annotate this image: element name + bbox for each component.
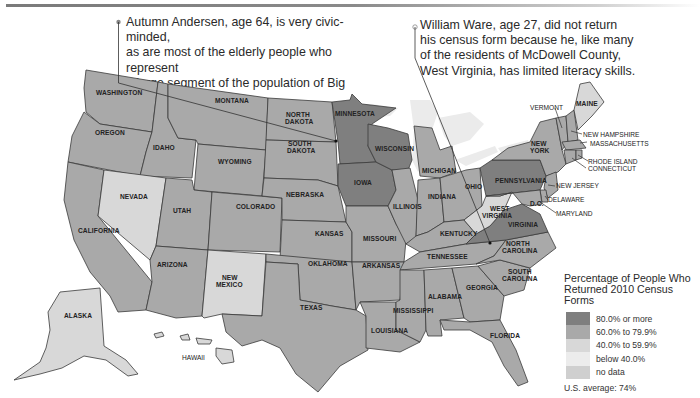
label-vermont: VERMONT: [530, 104, 563, 111]
legend-label: no data: [596, 367, 625, 377]
state-connecticut[interactable]: [564, 150, 576, 164]
legend-title-line-2: Returned 2010 Census Forms: [564, 284, 700, 306]
label-new-mexico-1: NEW: [222, 274, 238, 281]
legend-item: no data: [566, 366, 700, 379]
label-iowa: IOWA: [354, 179, 372, 186]
label-kentucky: KENTUCKY: [440, 230, 478, 237]
legend-swatch: [566, 325, 590, 338]
label-connecticut: CONNECTICUT: [588, 165, 636, 172]
legend-item: 60.0% to 79.9%: [566, 325, 700, 338]
label-florida: FLORIDA: [490, 332, 520, 339]
legend-swatch: [566, 312, 590, 325]
label-south-carolina-2: CAROLINA: [502, 275, 538, 282]
label-new-mexico-2: MEXICO: [216, 281, 243, 288]
label-south-dakota-2: DAKOTA: [287, 147, 315, 154]
state-rhode-island[interactable]: [576, 150, 582, 160]
label-kansas: KANSAS: [315, 230, 344, 237]
label-massachusetts: MASSACHUSETTS: [590, 140, 649, 147]
state-kansas[interactable]: [280, 220, 352, 262]
legend-label: 80.0% or more: [596, 314, 652, 324]
legend-label: below 40.0%: [596, 354, 645, 364]
label-new-jersey: NEW JERSEY: [556, 182, 599, 189]
label-tennessee: TENNESSEE: [427, 253, 468, 260]
label-maryland: MARYLAND: [556, 210, 593, 217]
us-average: U.S. average: 74%: [564, 383, 700, 393]
label-missouri: MISSOURI: [363, 235, 396, 242]
label-utah: UTAH: [173, 207, 191, 214]
label-alabama: ALABAMA: [428, 293, 462, 300]
label-virginia: VIRGINIA: [508, 221, 538, 228]
legend-swatch: [566, 339, 590, 352]
label-new-york-2: YORK: [530, 147, 550, 154]
label-dc: D.C.: [530, 200, 544, 207]
legend-item: 40.0% to 59.9%: [566, 339, 700, 352]
label-oklahoma: OKLAHOMA: [308, 260, 348, 267]
label-north-carolina-1: NORTH: [506, 240, 530, 247]
legend-item: below 40.0%: [566, 352, 700, 365]
label-arkansas: ARKANSAS: [362, 262, 401, 269]
label-idaho: IDAHO: [153, 144, 175, 151]
label-west-virginia-1: WEST: [490, 205, 509, 212]
label-nevada: NEVADA: [120, 193, 148, 200]
state-colorado[interactable]: [208, 192, 282, 252]
label-texas: TEXAS: [300, 304, 323, 311]
label-new-york-1: NEW: [531, 140, 547, 147]
label-minnesota: MINNESOTA: [335, 110, 375, 117]
label-wyoming: WYOMING: [218, 158, 252, 165]
label-georgia: GEORGIA: [466, 284, 498, 291]
label-illinois: ILLINOIS: [393, 203, 422, 210]
legend-label: 40.0% to 59.9%: [596, 340, 657, 350]
label-north-dakota-1: NORTH: [286, 111, 310, 118]
label-delaware: DELAWARE: [548, 196, 585, 203]
state-massachusetts[interactable]: [562, 140, 586, 150]
label-north-carolina-2: CAROLINA: [502, 247, 538, 254]
label-pennsylvania: PENNSYLVANIA: [495, 177, 547, 184]
state-arizona[interactable]: [146, 246, 208, 318]
legend-item: 80.0% or more: [566, 312, 700, 325]
label-rhode-island: RHODE ISLAND: [588, 158, 638, 165]
label-south-carolina-1: SOUTH: [508, 268, 532, 275]
label-michigan: MICHIGAN: [422, 167, 456, 174]
legend-swatch: [566, 366, 590, 379]
label-west-virginia-2: VIRGINIA: [482, 212, 512, 219]
state-florida[interactable]: [440, 320, 528, 386]
label-north-dakota-2: DAKOTA: [285, 118, 313, 125]
big-stone-county-marker: [334, 139, 337, 142]
mcdowell-county-marker: [488, 241, 491, 244]
label-south-dakota-1: SOUTH: [288, 140, 312, 147]
label-wisconsin: WISCONSIN: [375, 145, 414, 152]
label-colorado: COLORADO: [236, 203, 275, 210]
label-nebraska: NEBRASKA: [286, 191, 324, 198]
legend-swatch: [566, 352, 590, 365]
label-alaska: ALASKA: [64, 312, 92, 319]
label-hawaii: HAWAII: [182, 354, 205, 361]
label-arizona: ARIZONA: [157, 261, 188, 268]
label-washington: WASHINGTON: [96, 89, 142, 96]
label-ohio: OHIO: [465, 183, 482, 190]
label-louisiana: LOUISIANA: [371, 327, 408, 334]
legend: Percentage of People Who Returned 2010 C…: [566, 273, 700, 393]
label-montana: MONTANA: [215, 97, 249, 104]
legend-label: 60.0% to 79.9%: [596, 327, 657, 337]
label-oregon: OREGON: [95, 129, 125, 136]
label-maine: MAINE: [576, 100, 598, 107]
label-indiana: INDIANA: [428, 193, 456, 200]
label-mississippi: MISSISSIPPI: [393, 307, 433, 314]
label-california: CALIFORNIA: [78, 227, 120, 234]
state-wyoming[interactable]: [194, 144, 266, 196]
label-new-hampshire: NEW HAMPSHIRE: [583, 131, 640, 138]
